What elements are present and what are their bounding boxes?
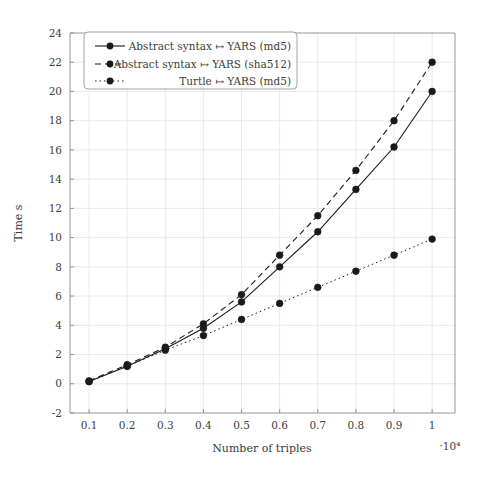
x-tick-label: 0.3	[157, 419, 174, 431]
data-point	[352, 186, 359, 193]
data-point	[314, 284, 321, 291]
x-tick-label: 0.8	[348, 419, 365, 431]
data-point	[391, 144, 398, 151]
data-point	[200, 332, 207, 339]
data-point	[200, 320, 207, 327]
legend: Abstract syntax ↦ YARS (md5)Abstract syn…	[84, 32, 297, 89]
legend-marker	[107, 43, 114, 50]
y-tick-label: 16	[49, 144, 63, 156]
data-point	[314, 212, 321, 219]
y-tick-label: 22	[49, 56, 62, 68]
data-point	[86, 378, 93, 385]
legend-marker	[107, 78, 114, 85]
data-point	[276, 263, 283, 270]
data-point	[429, 88, 436, 95]
x-tick-label: 0.1	[81, 419, 98, 431]
data-point	[276, 300, 283, 307]
x-tick-label: 0.9	[386, 419, 403, 431]
data-point	[429, 59, 436, 66]
data-point	[314, 228, 321, 235]
x-tick-label: 0.5	[233, 419, 250, 431]
data-point	[429, 236, 436, 243]
data-point	[162, 347, 169, 354]
legend-label: Abstract syntax ↦ YARS (sha512)	[113, 58, 291, 70]
legend-label: Abstract syntax ↦ YARS (md5)	[128, 40, 291, 52]
data-point	[238, 316, 245, 323]
data-point	[238, 299, 245, 306]
y-tick-label: 6	[55, 290, 62, 302]
legend-label: Turtle ↦ YARS (md5)	[179, 75, 291, 87]
x-tick-label: 0.4	[195, 419, 212, 431]
data-point	[391, 117, 398, 124]
y-tick-label: 12	[49, 202, 62, 214]
legend-marker	[107, 61, 114, 68]
data-point	[352, 167, 359, 174]
data-point	[276, 252, 283, 259]
x-axis-exponent-label: ·10⁴	[440, 440, 461, 452]
x-tick-label: 0.6	[271, 419, 288, 431]
data-point	[352, 268, 359, 275]
y-axis-title: Time s	[12, 204, 25, 241]
y-tick-label: 8	[55, 261, 62, 273]
y-tick-label: 18	[49, 114, 62, 126]
line-chart: -2024681012141618202224 0.10.20.30.40.50…	[0, 0, 482, 482]
y-tick-label: -2	[52, 407, 62, 419]
data-point	[391, 252, 398, 259]
y-tick-label: 24	[49, 27, 63, 39]
y-tick-label: 4	[55, 319, 62, 331]
x-tick-label: 0.7	[309, 419, 326, 431]
y-tick-label: 2	[55, 348, 62, 360]
chart-figure: -2024681012141618202224 0.10.20.30.40.50…	[0, 0, 482, 482]
y-tick-label: 20	[49, 85, 62, 97]
x-tick-label: 1	[429, 419, 436, 431]
x-axis-title: Number of triples	[212, 442, 312, 455]
data-point	[238, 291, 245, 298]
y-tick-label: 0	[55, 377, 62, 389]
data-point	[124, 363, 131, 370]
y-tick-label: 10	[49, 231, 62, 243]
y-tick-label: 14	[49, 173, 63, 185]
x-tick-label: 0.2	[119, 419, 136, 431]
